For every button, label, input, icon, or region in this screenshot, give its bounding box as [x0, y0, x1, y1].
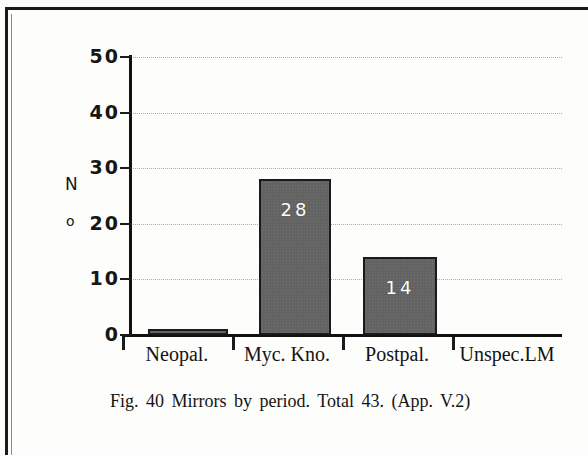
y-axis-tick	[120, 223, 132, 225]
page-frame-left-rule	[5, 7, 8, 455]
y-axis-tick-label-text: 0	[74, 325, 120, 344]
bar: 28	[259, 179, 331, 335]
y-axis-tick	[120, 56, 132, 58]
bar-value-label: 14	[365, 277, 435, 298]
x-axis-category-label: Postpal.	[342, 343, 452, 366]
y-axis-tick	[120, 334, 132, 336]
y-axis-tick	[120, 278, 132, 280]
y-axis-tick-label: 0	[60, 325, 120, 344]
figure-caption: Fig. 40 Mirrors by period. Total 43. (Ap…	[110, 391, 470, 412]
x-axis-category-label: Unspec.LM	[452, 343, 562, 366]
bar: 14	[363, 257, 437, 335]
bar-value-label: 28	[261, 199, 329, 220]
y-axis-tick-label-text: 50	[74, 47, 120, 66]
y-axis-title-line-2: o	[66, 213, 75, 230]
gridline	[131, 113, 562, 114]
x-axis-category-label: Myc. Kno.	[232, 343, 342, 366]
gridline	[131, 57, 562, 58]
page-frame-top-rule	[5, 7, 588, 10]
y-axis-title-line-1: N	[65, 176, 78, 193]
y-axis-tick-label: 50	[60, 47, 120, 66]
x-axis-category-label: Neopal.	[122, 343, 232, 366]
figure-page: 01020304050 N o 2814 Neopal.Myc. Kno.Pos…	[0, 0, 588, 455]
y-axis-tick-label: 40	[60, 103, 120, 122]
y-axis-tick	[120, 112, 132, 114]
y-axis-tick-label-text: 40	[74, 103, 120, 122]
gridline	[131, 224, 562, 225]
page-frame-left-inner-rule	[11, 14, 12, 455]
bar	[148, 329, 228, 335]
y-axis-tick	[120, 167, 132, 169]
y-axis-line	[129, 55, 132, 337]
gridline	[131, 168, 562, 169]
y-axis-tick-label-text: 20	[74, 214, 120, 233]
y-axis-tick-label: 10	[60, 269, 120, 288]
gridline	[131, 279, 562, 280]
y-axis-tick-label-text: 10	[74, 269, 120, 288]
y-axis-tick-label-text: 30	[74, 158, 120, 177]
